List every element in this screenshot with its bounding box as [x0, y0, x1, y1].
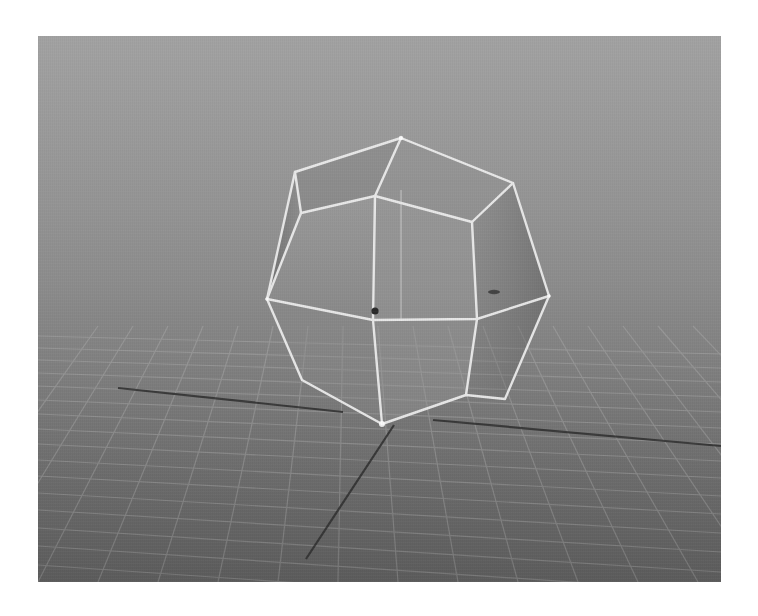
manipulator-handle-icon[interactable] — [488, 290, 500, 294]
3d-viewport[interactable] — [38, 36, 721, 582]
page — [0, 0, 758, 616]
viewport-canvas[interactable] — [38, 36, 721, 582]
polyhedron-object[interactable] — [265, 136, 551, 427]
pivot-marker-icon[interactable] — [371, 307, 378, 314]
